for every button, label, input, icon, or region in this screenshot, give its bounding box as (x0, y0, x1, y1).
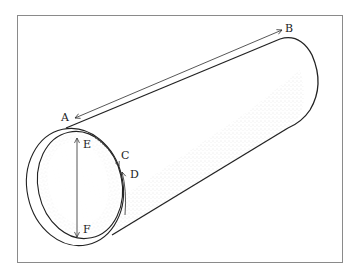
label-F: F (83, 223, 91, 236)
arrow-A-B (75, 30, 282, 118)
cylinder-diagram: A B C D E F (0, 0, 359, 277)
label-E: E (83, 138, 91, 151)
label-B: B (285, 22, 293, 35)
tube-shading (110, 70, 304, 235)
label-C: C (121, 149, 129, 162)
label-A: A (60, 111, 70, 124)
label-D: D (130, 168, 139, 181)
